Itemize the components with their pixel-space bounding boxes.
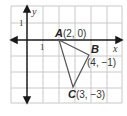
point-c-label: C(3, −3) <box>68 89 105 100</box>
point-c-coords: (3, −3) <box>76 89 105 100</box>
point-c-name: C <box>68 88 76 100</box>
y-axis-label: y <box>32 7 36 17</box>
y-tick-1: 1 <box>19 19 24 28</box>
triangle-abc <box>59 40 89 87</box>
point-a-label: A(2, 0) <box>55 28 86 39</box>
x-axis-label: x <box>113 44 117 54</box>
point-a-coords: (2, 0) <box>63 28 86 39</box>
x-tick-1: 1 <box>40 43 45 52</box>
point-b-name: B <box>91 44 99 55</box>
point-b-coords: (4, −1) <box>87 58 116 68</box>
point-a-name: A <box>55 27 63 39</box>
